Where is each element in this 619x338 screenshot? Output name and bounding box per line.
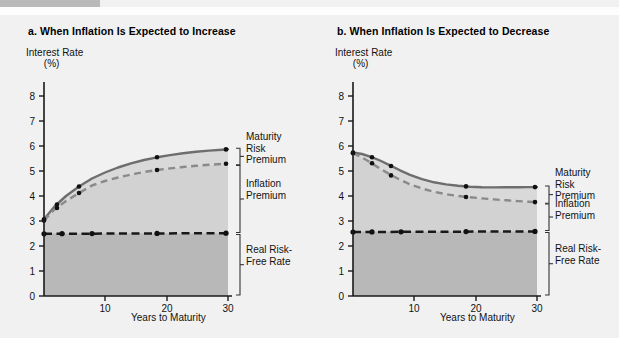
panel-a-xtick-10: 10 (99, 303, 111, 314)
panel-b-ytick-4: 4 (338, 191, 344, 202)
panel-a-real-risk-free-bracket (236, 235, 244, 296)
panel-a-inflation-premium-bracket (236, 166, 244, 233)
panel-a-y-tick-labels: 8 7 6 5 4 3 2 1 0 (29, 91, 35, 302)
panel-a-maturity-risk-premium-bracket (236, 148, 244, 165)
panel-a-ytick-3: 3 (29, 216, 35, 227)
chart-panel-a: a. When Inflation Is Expected to Increas… (0, 15, 310, 338)
panel-b-ytick-7: 7 (338, 116, 344, 127)
panel-b-xtick-30: 30 (531, 303, 543, 314)
page-top-artifact-bar (0, 0, 100, 7)
panel-a-ytick-2: 2 (29, 241, 35, 252)
panel-a-annotation-maturity-risk-premium: Maturity Risk Premium (246, 131, 286, 166)
panel-b-ytick-2: 2 (338, 241, 344, 252)
panel-b-ytick-5: 5 (338, 166, 344, 177)
panel-b-ytick-3: 3 (338, 216, 344, 227)
panel-a-ytick-7: 7 (29, 116, 35, 127)
panel-a-x-axis-title: Years to Maturity (131, 312, 206, 323)
panel-a-annotation-real-risk-free-rate: Real Risk- Free Rate (246, 244, 292, 267)
panel-a-ytick-6: 6 (29, 141, 35, 152)
panel-b-y-tick-labels: 8 7 6 5 4 3 2 1 0 (338, 91, 344, 302)
panel-a-annotation-inflation-premium: Inflation Premium (246, 178, 286, 201)
page-top-white-band (0, 7, 619, 15)
panel-b-ytick-1: 1 (338, 266, 344, 277)
panel-b-x-axis-title: Years to Maturity (440, 312, 515, 323)
panel-b-xtick-10: 10 (408, 303, 420, 314)
panel-a-ytick-8: 8 (29, 91, 35, 102)
panel-b-annotation-maturity-risk-premium: Maturity Risk Premium (555, 167, 595, 202)
panel-a-ytick-1: 1 (29, 266, 35, 277)
panel-b-inflation-premium-bracket (545, 204, 553, 231)
chart-panel-b: b. When Inflation Is Expected to Decreas… (310, 15, 619, 338)
panel-a-real-risk-free-line (44, 233, 228, 234)
panel-b-real-risk-free-area (353, 232, 537, 297)
panel-b-real-risk-free-bracket (545, 233, 553, 296)
figure-container: a. When Inflation Is Expected to Increas… (0, 0, 619, 338)
panel-a-ytick-5: 5 (29, 166, 35, 177)
panel-a-ytick-4: 4 (29, 191, 35, 202)
panel-a-ytick-0: 0 (29, 291, 35, 302)
panel-b-annotation-inflation-premium: Inflation Premium (555, 198, 595, 221)
panel-b-ytick-6: 6 (338, 141, 344, 152)
panel-b-annotation-real-risk-free-rate: Real Risk- Free Rate (555, 243, 601, 266)
panel-a-real-risk-free-area (44, 234, 228, 297)
panel-a-xtick-30: 30 (222, 303, 234, 314)
panel-b-maturity-risk-premium-bracket (545, 186, 553, 203)
panel-b-ytick-0: 0 (338, 291, 344, 302)
panel-a-plot: 8 7 6 5 4 3 2 1 0 10 20 30 (0, 15, 310, 338)
panel-b-real-risk-free-line (353, 231, 537, 232)
panel-b-ytick-8: 8 (338, 91, 344, 102)
